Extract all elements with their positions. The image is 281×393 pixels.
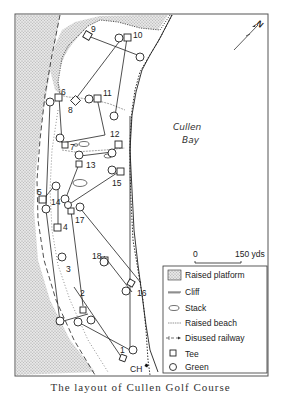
tee-marker-11 [94,95,101,102]
legend-label: Stack [185,303,207,313]
map-caption: The layout of Cullen Golf Course [0,381,281,393]
green-marker [58,253,66,261]
tee-marker-2 [80,307,86,313]
hole-label: 4 [63,222,68,232]
green-marker [42,205,50,213]
legend-label: Cliff [185,287,200,297]
legend-label: Tee [185,349,199,359]
tee-marker-1 [119,354,127,362]
golf-course-map: 9 10 6 8 11 7 12 13 15 5 14 17 4 18 2 3 … [0,0,281,393]
green-marker [108,166,116,174]
green-marker [87,316,95,324]
hole-label: 7 [70,142,75,152]
bay-label-line1: Cullen [173,122,202,132]
hole-label: 14 [51,197,61,207]
hole-label: 12 [110,129,120,139]
hole-label: 1 [120,345,125,355]
legend: Raised platform Cliff Stack Raised beach… [163,266,267,373]
tee-marker-12 [115,141,122,148]
legend-label: Green [185,362,209,372]
hole-label: 15 [112,178,122,188]
tee-marker-10 [124,34,131,41]
green-marker [115,34,123,42]
green-marker [65,202,72,209]
green-circle-icon [170,364,177,371]
hole-label: 2 [80,288,85,298]
tee-square-icon [170,350,176,356]
tee-marker-7 [62,142,68,148]
green-marker [122,287,130,295]
tee-marker-4 [54,224,61,231]
legend-label: Raised platform [185,270,245,280]
scale-end: 150 yds [235,249,265,259]
legend-label: Raised beach [185,318,237,328]
tee-marker-5 [39,196,46,203]
bay-label-line2: Bay [182,135,200,145]
green-marker [110,112,118,120]
tee-marker-15 [117,168,124,175]
hole-label: 11 [103,88,112,98]
green-marker [76,203,84,211]
hole-label: 9 [91,24,96,34]
green-marker [129,346,137,354]
tee-marker-13 [76,161,82,167]
hole-label: 13 [86,160,96,170]
scale-start: 0 [193,249,198,259]
green-marker [56,317,64,325]
hole-label: 8 [68,105,73,115]
green-marker [52,182,60,190]
green-marker [85,95,93,103]
green-marker [56,134,64,142]
tee-marker-17 [68,208,74,214]
green-marker [74,318,82,326]
green-marker [75,151,83,159]
green-marker [136,53,144,61]
hole-label: 18 [92,251,102,261]
green-marker [46,98,54,106]
clubhouse-label: CH [130,364,142,374]
legend-label: Disused railway [185,333,245,343]
green-marker [108,149,116,157]
hole-label: 3 [66,264,71,274]
hole-label: 6 [61,87,66,97]
hole-label: 5 [37,187,42,197]
hole-label: 10 [133,30,143,40]
hole-label: 16 [137,288,147,298]
raised-platform-swatch-icon [168,270,181,280]
hole-label: 17 [75,215,85,225]
